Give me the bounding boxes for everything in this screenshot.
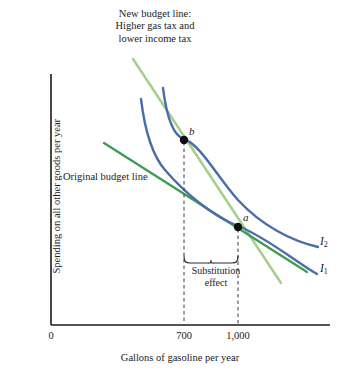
y-axis-title: Spending on all other goods per year (51, 81, 63, 311)
curve-label-i2: I2 (320, 235, 328, 249)
curve-label-i1: I1 (320, 262, 328, 276)
data-point-b-label: b (189, 125, 195, 138)
substitution-effect-annotation: Substitution effect (172, 265, 260, 289)
x-tick-label-700: 700 (168, 330, 200, 342)
new-budget-line (133, 59, 281, 283)
x-tick-label-0: 0 (38, 330, 64, 342)
substitution-effect-brace (184, 256, 238, 263)
x-axis-title: Gallons of gasoline per year (60, 352, 300, 364)
new-budget-line-annotation: New budget line: Higher gas tax and lowe… (80, 8, 230, 45)
indifference-curve-i1 (141, 99, 317, 274)
curve-label-i2-subscript: 2 (324, 240, 328, 249)
curve-label-i1-subscript: 1 (324, 267, 328, 276)
data-point-b (180, 136, 188, 144)
indifference-curve-figure: New budget line: Higher gas tax and lowe… (0, 0, 347, 380)
x-tick-label-1000: 1,000 (218, 330, 258, 342)
original-budget-line-annotation: Original budget line (63, 171, 148, 183)
data-point-a (234, 223, 242, 231)
data-point-a-label: a (243, 211, 249, 224)
